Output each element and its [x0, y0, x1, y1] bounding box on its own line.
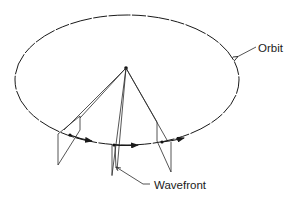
orbit-callout: Orbit [237, 42, 284, 57]
wavefront-label: Wavefront [154, 179, 207, 191]
wavefront-callout: Wavefront [116, 167, 207, 191]
orbit-label: Orbit [258, 42, 284, 54]
orbit-ellipse [15, 15, 239, 145]
wavefront-plane-left [58, 116, 80, 165]
wavefront-plane-right [157, 122, 171, 172]
orbit-wavefront-diagram: Orbit Wavefront [0, 0, 300, 201]
